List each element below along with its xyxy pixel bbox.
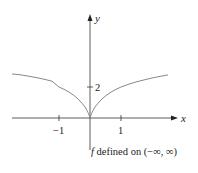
- domain-annotation: f defined on (−∞, ∞): [91, 146, 177, 158]
- x-axis-arrow-icon: [171, 116, 178, 121]
- tick-label-2: 2: [95, 82, 100, 93]
- function-graph: x y −1 1 2 f defined on (−∞, ∞): [0, 0, 198, 173]
- tick-label-neg1: −1: [53, 125, 64, 136]
- x-axis-label: x: [180, 112, 186, 124]
- annotation-text: defined on (−∞, ∞): [94, 146, 177, 158]
- y-axis-arrow-icon: [88, 14, 93, 21]
- tick-label-pos1: 1: [118, 125, 123, 136]
- y-axis-label: y: [94, 12, 100, 24]
